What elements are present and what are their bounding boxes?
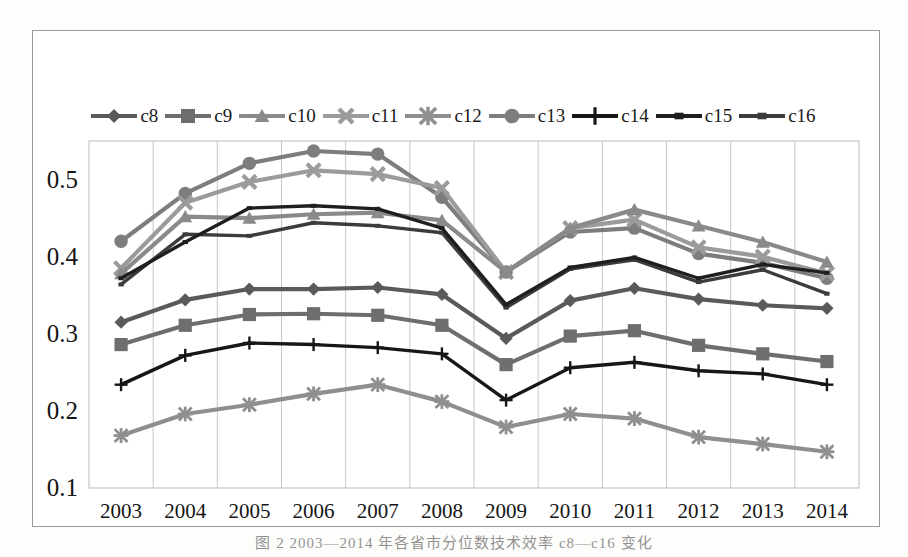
y-axis-tick: 0.5 bbox=[47, 166, 78, 194]
plot-area: 0.10.20.30.40.52003200420052006200720082… bbox=[89, 141, 859, 488]
x-axis-tick: 2007 bbox=[357, 499, 399, 524]
data-point bbox=[178, 407, 193, 422]
data-point bbox=[370, 377, 385, 392]
legend-label: c16 bbox=[785, 105, 822, 127]
x-axis-tick: 2012 bbox=[678, 499, 720, 524]
square-icon bbox=[165, 106, 211, 126]
legend-label: c10 bbox=[285, 105, 322, 127]
x-icon bbox=[323, 106, 369, 126]
data-point bbox=[307, 144, 320, 157]
x-axis-tick: 2005 bbox=[228, 499, 270, 524]
data-point bbox=[243, 157, 256, 170]
legend-label: c9 bbox=[211, 105, 239, 127]
legend-label: c8 bbox=[137, 105, 165, 127]
plus-icon bbox=[572, 106, 618, 126]
legend-item-c13[interactable]: c13 bbox=[489, 105, 572, 127]
line-icon bbox=[739, 106, 785, 126]
data-point bbox=[627, 411, 642, 426]
legend-item-c15[interactable]: c15 bbox=[656, 105, 739, 127]
data-point bbox=[114, 428, 129, 443]
chart-frame: c8c9c10c11c12c13c14c15c16 0.10.20.30.40.… bbox=[32, 30, 880, 527]
x-axis-tick: 2013 bbox=[742, 499, 784, 524]
data-point bbox=[311, 204, 316, 208]
data-point bbox=[183, 232, 188, 236]
data-point bbox=[311, 221, 316, 225]
x-axis-tick: 2010 bbox=[549, 499, 591, 524]
legend-item-c16[interactable]: c16 bbox=[739, 105, 822, 127]
y-axis-tick: 0.1 bbox=[47, 474, 78, 502]
data-point bbox=[118, 276, 123, 280]
x-axis-tick: 2009 bbox=[485, 499, 527, 524]
data-point bbox=[439, 226, 444, 230]
x-axis-tick: 2011 bbox=[614, 499, 655, 524]
data-point bbox=[696, 280, 701, 284]
legend-item-c11[interactable]: c11 bbox=[323, 105, 406, 127]
data-point bbox=[691, 430, 706, 445]
data-point bbox=[307, 307, 320, 320]
data-point bbox=[375, 224, 380, 228]
data-point bbox=[628, 324, 641, 337]
diamond-icon bbox=[91, 106, 137, 126]
data-point bbox=[499, 358, 512, 371]
data-point bbox=[568, 265, 573, 269]
data-point bbox=[247, 206, 252, 210]
data-point bbox=[503, 302, 508, 306]
legend-item-c8[interactable]: c8 bbox=[91, 105, 165, 127]
data-point bbox=[824, 271, 829, 275]
data-point bbox=[371, 309, 384, 322]
triangle-icon bbox=[239, 106, 285, 126]
data-point bbox=[306, 387, 321, 402]
scanned-page: c8c9c10c11c12c13c14c15c16 0.10.20.30.40.… bbox=[0, 0, 908, 557]
x-axis-tick: 2003 bbox=[100, 499, 142, 524]
data-point bbox=[760, 268, 765, 272]
data-point bbox=[114, 235, 127, 248]
data-point bbox=[564, 329, 577, 342]
legend-label: c15 bbox=[702, 105, 739, 127]
x-axis-tick: 2014 bbox=[806, 499, 848, 524]
data-point bbox=[183, 240, 188, 244]
data-point bbox=[563, 407, 578, 422]
x-axis-tick: 2004 bbox=[164, 499, 206, 524]
x-axis-tick: 2008 bbox=[421, 499, 463, 524]
data-point bbox=[756, 347, 769, 360]
y-axis-tick: 0.3 bbox=[47, 320, 78, 348]
data-point bbox=[179, 319, 192, 332]
chart-legend: c8c9c10c11c12c13c14c15c16 bbox=[33, 99, 881, 133]
data-point bbox=[114, 338, 127, 351]
legend-item-c9[interactable]: c9 bbox=[165, 105, 239, 127]
x-axis-tick: 2006 bbox=[293, 499, 335, 524]
data-point bbox=[375, 207, 380, 211]
data-point bbox=[692, 339, 705, 352]
legend-label: c13 bbox=[535, 105, 572, 127]
legend-label: c14 bbox=[618, 105, 655, 127]
data-point bbox=[371, 147, 384, 160]
legend-item-c12[interactable]: c12 bbox=[405, 105, 488, 127]
data-point bbox=[755, 437, 770, 452]
plot-svg bbox=[89, 141, 859, 488]
legend-label: c12 bbox=[451, 105, 488, 127]
data-point bbox=[632, 255, 637, 259]
legend-item-c10[interactable]: c10 bbox=[239, 105, 322, 127]
data-point bbox=[499, 420, 514, 435]
data-point bbox=[760, 262, 765, 266]
data-point bbox=[243, 308, 256, 321]
data-point bbox=[242, 397, 257, 412]
legend-item-c14[interactable]: c14 bbox=[572, 105, 655, 127]
data-point bbox=[435, 319, 448, 332]
data-point bbox=[696, 276, 701, 280]
data-point bbox=[824, 292, 829, 296]
data-point bbox=[247, 234, 252, 238]
circle-icon bbox=[489, 106, 535, 126]
data-point bbox=[118, 282, 123, 286]
y-axis-tick: 0.2 bbox=[47, 397, 78, 425]
line-icon bbox=[656, 106, 702, 126]
figure-caption: 图 2 2003—2014 年各省市分位数技术效率 c8—c16 变化 bbox=[0, 531, 908, 552]
asterisk-icon bbox=[405, 106, 451, 126]
data-point bbox=[820, 355, 833, 368]
y-axis-tick: 0.4 bbox=[47, 243, 78, 271]
data-point bbox=[820, 444, 835, 459]
data-point bbox=[435, 394, 450, 409]
legend-label: c11 bbox=[369, 105, 406, 127]
